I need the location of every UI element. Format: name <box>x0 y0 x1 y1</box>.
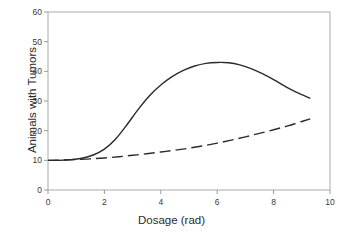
x-axis-tick-label: 10 <box>325 198 334 207</box>
x-axis-tick-label: 4 <box>158 198 163 207</box>
plot-frame <box>48 12 330 190</box>
y-axis-tick-label: 60 <box>20 8 42 17</box>
x-axis-tick-label: 0 <box>46 198 51 207</box>
y-axis-tick-label: 0 <box>20 186 42 195</box>
y-axis-ticks <box>44 12 48 190</box>
plot-frame-path <box>48 12 330 190</box>
chart-figure: 0102030405060 0246810 Animals with Tumor… <box>0 0 343 238</box>
x-axis-tick-label: 6 <box>215 198 220 207</box>
x-axis-tick-label: 2 <box>102 198 107 207</box>
x-axis-title: Dosage (rad) <box>0 214 343 226</box>
y-axis-title: Animals with Tumors <box>26 20 38 180</box>
series-line-dashed-curve <box>48 119 310 161</box>
x-axis-ticks <box>48 190 330 194</box>
plot-area <box>0 0 343 238</box>
x-axis-tick-label: 8 <box>271 198 276 207</box>
series-line-solid-curve <box>48 62 310 160</box>
data-series-group <box>48 62 310 160</box>
